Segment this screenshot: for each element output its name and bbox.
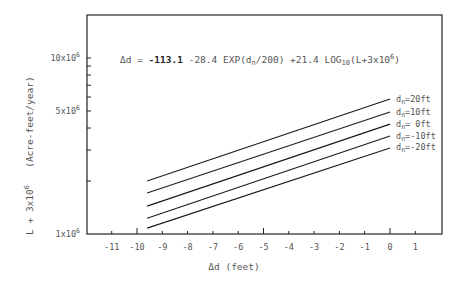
series-line <box>147 136 390 218</box>
series-line <box>147 124 390 206</box>
x-tick-label: -5 <box>258 242 268 252</box>
x-tick-label: -8 <box>182 242 192 252</box>
y-axis-label: L + 3x106 (Acre-feet/year) <box>23 76 35 235</box>
x-tick-label: -4 <box>284 242 294 252</box>
series-label: dn= 0ft <box>396 119 431 131</box>
chart: -11-10-9-8-7-6-5-4-3-2-101 1x1065x10610x… <box>0 0 463 284</box>
series-line <box>147 148 390 228</box>
y-tick-label: 10x106 <box>50 51 80 63</box>
series-line <box>147 112 390 193</box>
series-lines <box>147 99 390 228</box>
series-label: dn=-20ft <box>396 142 436 154</box>
y-tick-label: 5x106 <box>56 104 80 116</box>
x-tick-label: -3 <box>309 242 319 252</box>
x-tick-label: 1 <box>413 242 418 252</box>
series-label: dn=20ft <box>396 94 431 106</box>
x-tick-label: -7 <box>208 242 218 252</box>
series-label: dn=10ft <box>396 107 431 119</box>
inline-legend: dn=20ftdn=10ftdn= 0ftdn=-10ftdn=-20ft <box>396 94 436 154</box>
x-tick-label: -6 <box>233 242 243 252</box>
x-tick-label: -10 <box>129 242 144 252</box>
y-tick-label: 1x106 <box>56 227 80 239</box>
y-axis-ticks: 1x1065x10610x106 <box>50 51 91 239</box>
x-tick-label: -1 <box>360 242 370 252</box>
x-axis-label: Δd (feet) <box>208 261 259 272</box>
x-tick-label: 0 <box>387 242 392 252</box>
x-tick-label: -9 <box>157 242 167 252</box>
x-axis-ticks: -11-10-9-8-7-6-5-4-3-2-101 <box>104 228 418 252</box>
x-tick-label: -2 <box>334 242 344 252</box>
series-line <box>147 99 390 181</box>
svg-text:L + 3x106 (Acre-feet/year): L + 3x106 (Acre-feet/year) <box>23 76 35 235</box>
x-tick-label: -11 <box>104 242 119 252</box>
equation-annotation: Δd = -113.1 -28.4 EXP(dn/200) +21.4 LOG1… <box>120 53 400 67</box>
